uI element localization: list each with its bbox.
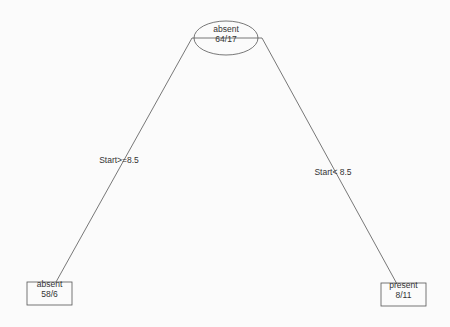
right-split-label: Start< 8.5: [314, 167, 351, 177]
right-leaf-class-label: present: [389, 280, 418, 290]
right-edge: [262, 38, 397, 284]
root-class-label: absent: [213, 24, 239, 34]
right-leaf-counts-label: 8/11: [396, 290, 412, 300]
left-leaf-node: absent 58/6: [27, 279, 72, 305]
left-split-label: Start>=8.5: [99, 155, 139, 165]
tree-svg: absent 64/17 Start>=8.5 Start< 8.5 absen…: [0, 0, 450, 327]
left-leaf-class-label: absent: [37, 279, 63, 289]
root-node: absent 64/17: [192, 21, 262, 55]
tree-diagram: absent 64/17 Start>=8.5 Start< 8.5 absen…: [0, 0, 450, 327]
left-leaf-counts-label: 58/6: [41, 289, 58, 299]
right-leaf-node: present 8/11: [381, 280, 426, 306]
root-counts-label: 64/17: [215, 34, 237, 44]
